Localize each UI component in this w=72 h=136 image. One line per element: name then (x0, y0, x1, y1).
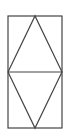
diagram-canvas (0, 0, 72, 136)
upper-triangle (8, 16, 62, 72)
lower-triangle (8, 72, 62, 128)
